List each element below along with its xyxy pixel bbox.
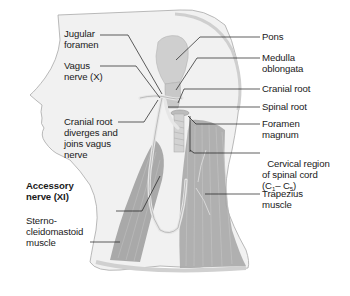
label-pons: Pons [262, 31, 283, 42]
label-sternocleidomastoid: Sterno- cleidomastoid muscle [26, 215, 83, 248]
label-foramen-magnum: Foramen magnum [262, 118, 300, 140]
label-trapezius: Trapezius muscle [262, 188, 303, 210]
label-jugular-foramen: Jugular foramen [64, 28, 99, 50]
label-vagus-nerve: Vagus nerve (X) [64, 60, 103, 82]
label-medulla-oblongata: Medulla oblongata [262, 52, 303, 74]
label-cranial-root-diverges: Cranial root diverges and joins vagus ne… [64, 116, 118, 160]
label-spinal-root: Spinal root [262, 101, 307, 112]
label-accessory-nerve: Accessory nerve (XI) [26, 180, 74, 202]
label-cranial-root: Cranial root [262, 83, 310, 94]
cervical-region-text: Cervical region of spinal cord [262, 158, 330, 180]
